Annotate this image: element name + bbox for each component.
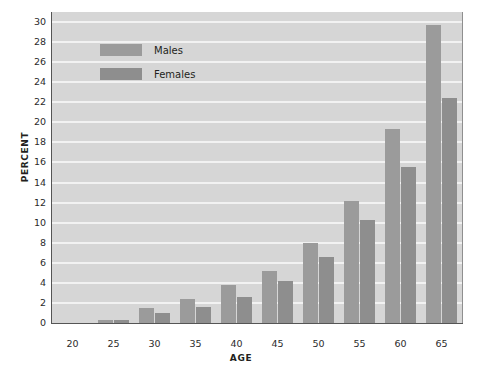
y-tick-label: 22 [24, 97, 46, 107]
gridline [52, 141, 462, 143]
x-tick-label: 45 [263, 338, 293, 349]
x-tick-label: 40 [222, 338, 252, 349]
bar-females-45 [278, 281, 293, 323]
gridline [52, 21, 462, 23]
gridline [52, 101, 462, 103]
bar-males-45 [262, 271, 277, 323]
x-tick-label: 60 [386, 338, 416, 349]
y-tick-label: 24 [24, 77, 46, 87]
gridline [52, 161, 462, 163]
bar-females-55 [360, 220, 375, 323]
bar-males-65 [426, 25, 441, 323]
bar-males-30 [139, 308, 154, 323]
y-tick-label: 26 [24, 57, 46, 67]
x-axis-line [51, 323, 463, 324]
x-tick-label: 35 [181, 338, 211, 349]
bar-females-60 [401, 167, 416, 324]
legend-label-males: Males [154, 45, 183, 56]
y-tick-label: 4 [24, 278, 46, 288]
y-tick-label: 28 [24, 37, 46, 47]
y-tick-label: 8 [24, 238, 46, 248]
legend-item-males: Males [100, 42, 195, 58]
y-tick-label: 0 [24, 318, 46, 328]
y-tick-label: 14 [24, 178, 46, 188]
bar-males-55 [344, 201, 359, 323]
bar-females-35 [196, 307, 211, 323]
bar-females-30 [155, 313, 170, 323]
legend-swatch-females-icon [100, 68, 142, 80]
bar-males-40 [221, 285, 236, 323]
chart-legend: Males Females [100, 42, 195, 90]
bar-females-40 [237, 297, 252, 323]
bar-females-65 [442, 98, 457, 323]
bar-chart: PERCENT 024681012141618202224262830 2025… [0, 0, 482, 377]
bar-females-50 [319, 257, 334, 323]
legend-item-females: Females [100, 66, 195, 82]
y-tick-label: 16 [24, 157, 46, 167]
y-tick-label: 20 [24, 117, 46, 127]
y-tick-label: 30 [24, 17, 46, 27]
x-tick-label: 50 [304, 338, 334, 349]
y-tick-label: 10 [24, 218, 46, 228]
y-tick-label: 18 [24, 137, 46, 147]
bar-males-50 [303, 243, 318, 323]
legend-label-females: Females [154, 69, 195, 80]
y-tick-label: 6 [24, 258, 46, 268]
gridline [52, 121, 462, 123]
x-tick-label: 25 [99, 338, 129, 349]
x-axis-title: AGE [0, 353, 482, 363]
x-tick-label: 20 [58, 338, 88, 349]
y-axis-tick-labels: 024681012141618202224262830 [22, 0, 46, 377]
x-tick-label: 55 [345, 338, 375, 349]
y-tick-label: 2 [24, 298, 46, 308]
x-tick-label: 65 [427, 338, 457, 349]
legend-swatch-males-icon [100, 44, 142, 56]
y-tick-label: 12 [24, 198, 46, 208]
bar-males-60 [385, 129, 400, 323]
x-tick-label: 30 [140, 338, 170, 349]
bar-males-35 [180, 299, 195, 323]
